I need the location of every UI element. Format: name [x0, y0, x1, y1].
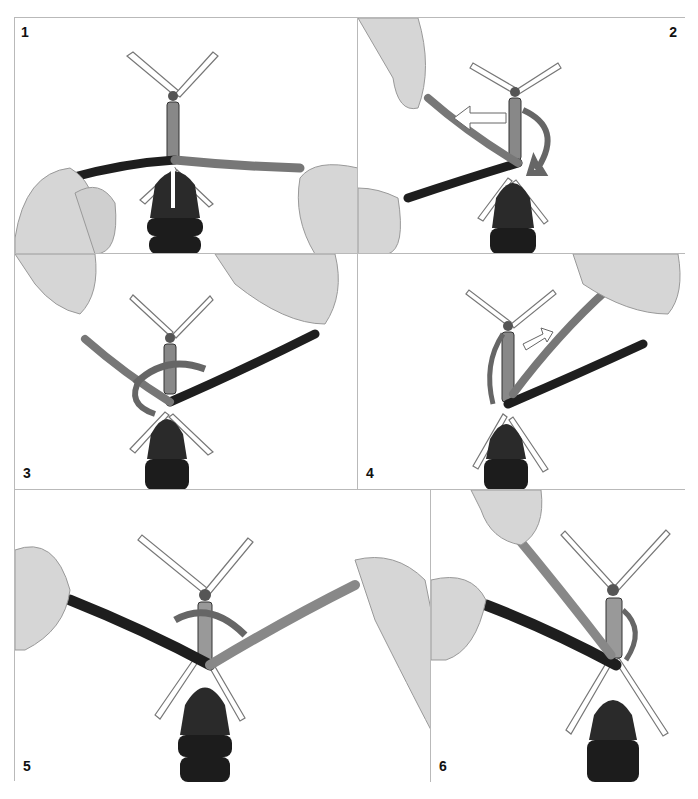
illustration-step-4	[358, 254, 685, 490]
illustration-step-3	[15, 254, 358, 490]
panel-3: 3	[15, 254, 358, 490]
illustration-step-6	[431, 490, 685, 782]
panel-4: 4	[358, 254, 685, 490]
step-number: 5	[23, 758, 31, 774]
instruction-figure: 1 2	[14, 17, 685, 781]
panel-6: 6	[431, 490, 685, 782]
panel-2: 2	[358, 18, 685, 254]
step-number: 2	[669, 24, 677, 40]
illustration-step-2	[358, 18, 685, 254]
illustration-step-5	[15, 490, 431, 782]
illustration-step-1	[15, 18, 358, 254]
panel-1: 1	[15, 18, 358, 254]
panel-5: 5	[15, 490, 431, 782]
step-number: 3	[23, 465, 31, 481]
step-number: 4	[366, 465, 374, 481]
step-number: 1	[21, 24, 29, 40]
step-number: 6	[439, 758, 447, 774]
